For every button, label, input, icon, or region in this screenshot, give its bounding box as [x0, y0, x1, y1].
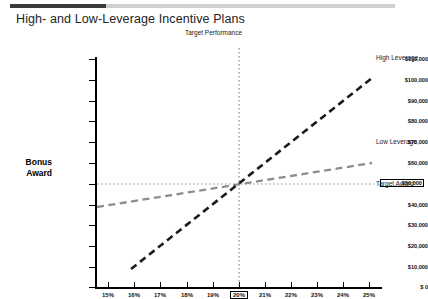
- legend-label-low-leverage: Low Leverage: [376, 138, 417, 145]
- annotation-target-performance-label: Target Performance: [185, 29, 242, 36]
- header-rule: [10, 4, 395, 8]
- x-tick-label-17: 17%: [145, 292, 175, 298]
- series-high-leverage-line: [131, 78, 372, 269]
- x-tick-label-20-text: 20%: [230, 291, 248, 299]
- page-title: High- and Low-Leverage Incentive Plans: [16, 12, 245, 26]
- series-low-leverage-line: [97, 163, 372, 207]
- chart-canvas: Bonus Award $110,000 $100,000 $90,000 $8…: [0, 26, 428, 292]
- x-tick-label-25: 25%: [354, 292, 384, 298]
- series-layer: [0, 26, 428, 292]
- legend-label-target-award: Target Award: [376, 180, 414, 187]
- legend-label-high-leverage: High Leverage: [376, 54, 418, 61]
